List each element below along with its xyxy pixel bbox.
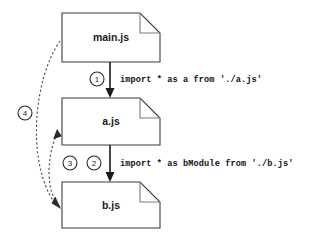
edge-3-b-to-a: [49, 129, 62, 207]
node-main-js: main.js: [62, 13, 160, 62]
diagram-canvas: main.js a.js b.js: [0, 0, 322, 245]
edge-2-a-to-b: [106, 145, 115, 182]
node-a-js: a.js: [62, 98, 160, 145]
badge-2-label: 2: [92, 159, 97, 168]
edge-3-dashed-path: [49, 136, 60, 207]
badge-4-label: 4: [23, 109, 28, 118]
badge-1-label: 1: [95, 75, 100, 84]
edge-3-arrowhead-icon: [53, 129, 62, 139]
a-js-label: a.js: [102, 115, 120, 127]
edge-4-badge: 4: [18, 106, 32, 120]
edge-4-arrowhead-icon: [52, 197, 62, 209]
main-js-label: main.js: [93, 31, 129, 43]
node-b-js: b.js: [62, 182, 160, 228]
b-js-label: b.js: [102, 199, 120, 211]
edge-2-badge: 2: [87, 156, 101, 170]
edge-1-main-to-a: [106, 62, 115, 98]
edge-1-arrowhead-icon: [106, 88, 115, 98]
edge-2-arrowhead-icon: [106, 172, 115, 182]
edge-1-import-statement: import * as a from './a.js': [120, 75, 262, 85]
edge-4-dashed-path: [36, 41, 60, 202]
badge-3-label: 3: [68, 159, 73, 168]
diagram-svg: main.js a.js b.js: [0, 0, 322, 245]
edge-2-import-statement: import * as bModule from './b.js': [120, 159, 293, 169]
edge-4-main-to-b: [36, 41, 61, 209]
edge-3-badge: 3: [63, 156, 77, 170]
edge-1-badge: 1: [90, 72, 104, 86]
